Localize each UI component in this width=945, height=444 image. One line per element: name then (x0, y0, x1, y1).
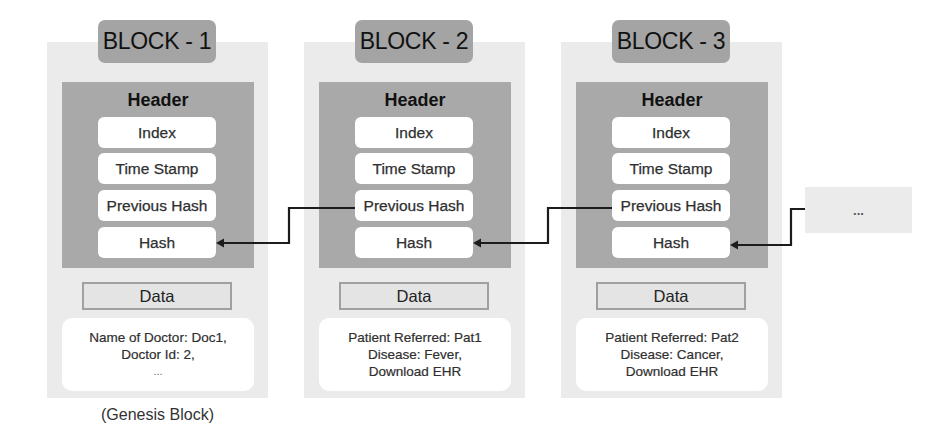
data-label: Data (82, 282, 232, 310)
field-hash: Hash (612, 227, 730, 258)
field-time-stamp: Time Stamp (355, 153, 473, 184)
field-hash: Hash (355, 227, 473, 258)
block-1: BLOCK - 1 Header Index Time Stamp Previo… (47, 0, 268, 444)
block-title: BLOCK - 3 (612, 20, 730, 63)
data-content: Patient Referred: Pat2 Disease: Cancer, … (576, 318, 768, 391)
field-index: Index (355, 117, 473, 148)
data-label: Data (596, 282, 746, 310)
header-label: Header (62, 88, 254, 112)
block-3: BLOCK - 3 Header Index Time Stamp Previo… (561, 0, 782, 444)
data-line-ellipsis: ... (62, 363, 254, 380)
data-line: Patient Referred: Pat2 (576, 329, 768, 346)
field-index: Index (98, 117, 216, 148)
block-title: BLOCK - 2 (355, 20, 473, 63)
genesis-block-caption: (Genesis Block) (47, 404, 268, 426)
header-label: Header (576, 88, 768, 112)
header-label: Header (319, 88, 511, 112)
block-title: BLOCK - 1 (98, 20, 216, 63)
field-previous-hash: Previous Hash (355, 190, 473, 221)
field-index: Index (612, 117, 730, 148)
field-previous-hash: Previous Hash (612, 190, 730, 221)
data-line: Disease: Cancer, (576, 346, 768, 363)
data-label: Data (339, 282, 489, 310)
field-previous-hash: Previous Hash (98, 190, 216, 221)
data-line: Patient Referred: Pat1 (319, 329, 511, 346)
data-line: Download EHR (576, 363, 768, 380)
field-hash: Hash (98, 227, 216, 258)
continuation-box: ... (805, 187, 912, 233)
block-2: BLOCK - 2 Header Index Time Stamp Previo… (304, 0, 525, 444)
data-content: Name of Doctor: Doc1, Doctor Id: 2, ... (62, 318, 254, 391)
data-line: Disease: Fever, (319, 346, 511, 363)
data-line: Doctor Id: 2, (62, 346, 254, 363)
field-time-stamp: Time Stamp (612, 153, 730, 184)
data-content: Patient Referred: Pat1 Disease: Fever, D… (319, 318, 511, 391)
data-line: Name of Doctor: Doc1, (62, 329, 254, 346)
field-time-stamp: Time Stamp (98, 153, 216, 184)
data-line: Download EHR (319, 363, 511, 380)
